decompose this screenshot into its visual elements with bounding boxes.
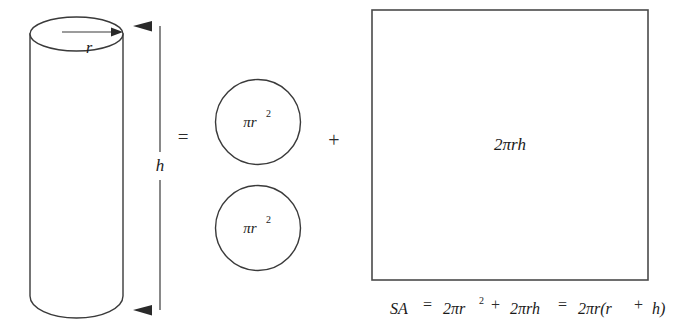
top-circle [216,80,301,165]
cylinder-shape [30,17,123,318]
bottom-circle-label: πr [243,220,257,236]
plus-operator: + [328,129,339,151]
formula-equals-first: = [423,296,432,313]
height-arrowhead-bottom-icon [133,305,152,316]
bottom-circle [216,186,301,271]
equals-operator: = [178,126,189,147]
formula-term-one: 2πr [443,300,466,317]
formula-term-three: 2πr(r [578,300,613,318]
surface-area-formula: SA = 2πr 2 + 2πrh = 2πr(r + h) [390,295,665,317]
figure-root: r h = πr 2 πr 2 + 2πrh [0,0,673,335]
bottom-circle-group: πr 2 [216,186,301,271]
cylinder-top-ellipse [30,17,123,51]
top-circle-label: πr [243,114,257,130]
cylinder-body [30,34,123,318]
formula-lhs: SA [390,300,408,317]
height-label: h [156,156,165,175]
top-circle-exponent: 2 [266,108,271,119]
formula-term-one-exponent: 2 [479,295,484,306]
top-circle-group: πr 2 [216,80,301,165]
formula-term-three-tail: h) [652,300,665,318]
lateral-rectangle-label: 2πrh [494,135,526,154]
formula-term-two: 2πrh [510,300,540,317]
height-arrowhead-top-icon [133,21,152,32]
formula-equals-second: = [558,296,567,313]
radius-label: r [86,39,93,56]
formula-term-three-plus: + [634,296,643,313]
bottom-circle-exponent: 2 [266,214,271,225]
formula-plus: + [491,296,500,313]
cylinder-surface-area-diagram: r h = πr 2 πr 2 + 2πrh [0,0,673,335]
